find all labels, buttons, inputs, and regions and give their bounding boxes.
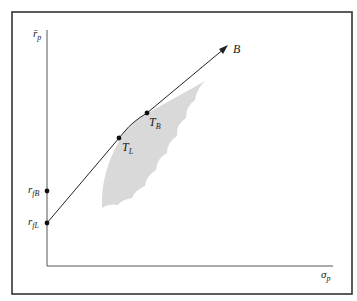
y-axis-label: r̄p — [33, 27, 41, 42]
efficient-frontier-diagram: r̄p σp rfB rfL TL TB B — [0, 0, 357, 301]
point-TL — [117, 136, 122, 141]
frame — [12, 12, 352, 294]
point-rfB — [45, 189, 50, 194]
point-rfL — [45, 221, 50, 226]
x-axis-label: σp — [321, 268, 330, 283]
label-rfB: rfB — [28, 183, 40, 198]
feasible-region — [102, 81, 205, 208]
label-B: B — [233, 42, 241, 56]
label-rfL: rfL — [28, 215, 40, 230]
arrow-head-icon — [219, 45, 228, 54]
